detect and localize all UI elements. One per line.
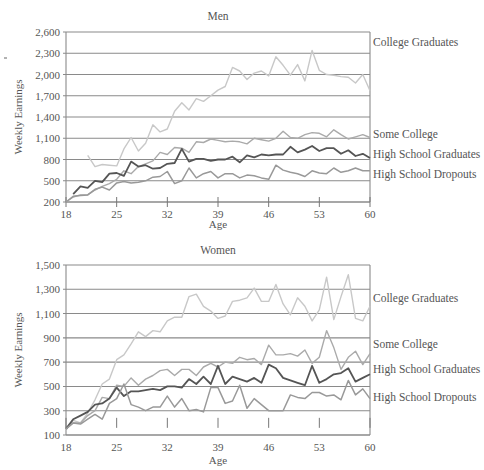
y-tick-label: 300 xyxy=(44,405,61,417)
x-tick-label: 32 xyxy=(162,208,173,220)
y-tick-label: 900 xyxy=(44,332,61,344)
y-tick-label: 1,700 xyxy=(35,90,60,102)
y-tick-label: 2,000 xyxy=(35,69,60,81)
series-label: Some College xyxy=(373,338,438,351)
x-tick-label: 18 xyxy=(61,441,73,453)
series-label: High School Dropouts xyxy=(373,391,477,404)
series-label: High School Graduates xyxy=(373,363,481,376)
y-tick-label: 200 xyxy=(44,196,61,208)
y-tick-label: 1,300 xyxy=(35,283,60,295)
series-label: High School Dropouts xyxy=(373,168,477,181)
y-tick-label: 1,100 xyxy=(35,132,60,144)
y-tick-label: 1,500 xyxy=(35,259,60,271)
y-tick-label: 500 xyxy=(44,380,61,392)
series-label: High School Graduates xyxy=(373,148,481,161)
women-chart: Women1003005007009001,1001,3001,50018253… xyxy=(12,244,481,466)
series-label: College Graduates xyxy=(373,36,459,49)
y-tick-label: 700 xyxy=(44,356,61,368)
x-tick-label: 25 xyxy=(111,208,123,220)
x-tick-label: 18 xyxy=(61,208,73,220)
y-tick-label: 2,600 xyxy=(35,26,60,38)
x-tick-label: 25 xyxy=(111,441,123,453)
y-tick-label: 800 xyxy=(44,154,61,166)
series-label: College Graduates xyxy=(373,292,459,305)
y-tick-label: 2,300 xyxy=(35,47,60,59)
chart-title: Men xyxy=(207,10,228,22)
y-axis-title: Weekly Earnings xyxy=(12,79,24,154)
x-axis-title: Age xyxy=(209,454,227,466)
y-tick-label: 100 xyxy=(44,429,61,441)
earnings-by-age-charts: Men2005008001,1001,4001,7002,0002,3002,6… xyxy=(0,0,484,470)
x-tick-label: 60 xyxy=(365,441,377,453)
x-tick-label: 60 xyxy=(365,208,377,220)
series-line-college-graduates xyxy=(88,50,370,166)
x-tick-label: 46 xyxy=(263,441,275,453)
y-tick-label: 1,400 xyxy=(35,111,60,123)
x-tick-label: 32 xyxy=(162,441,173,453)
men-chart: Men2005008001,1001,4001,7002,0002,3002,6… xyxy=(12,10,481,230)
series-label: Some College xyxy=(373,128,438,141)
series-line-high-school-dropouts xyxy=(66,165,370,202)
x-tick-label: 39 xyxy=(213,441,225,453)
series-line-college-graduates xyxy=(66,275,370,430)
chart-title: Women xyxy=(200,244,236,256)
y-tick-label: 500 xyxy=(44,175,61,187)
x-tick-label: 46 xyxy=(263,208,275,220)
x-tick-label: 53 xyxy=(314,441,326,453)
y-tick-label: 1,100 xyxy=(35,308,60,320)
x-tick-label: 53 xyxy=(314,208,326,220)
series-line-high-school-graduates xyxy=(73,146,370,194)
y-axis-title: Weekly Earnings xyxy=(12,312,24,387)
x-axis-title: Age xyxy=(209,218,227,230)
